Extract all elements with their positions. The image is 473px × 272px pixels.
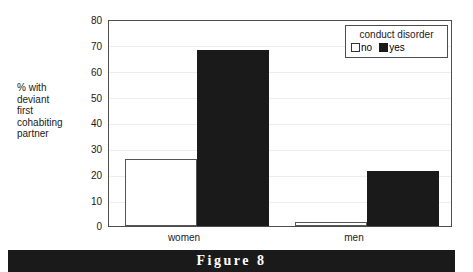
y-axis-tick-label-0: 0	[76, 222, 102, 232]
y-axis-tick-label-30: 30	[76, 145, 102, 155]
legend-title: conduct disorder	[351, 29, 442, 40]
legend-entries: no yes	[351, 42, 442, 53]
figure-caption-bar: Figure 8	[8, 250, 455, 272]
chart-plot-area: conduct disorder no yes	[108, 20, 452, 227]
black-square-swatch-icon	[379, 43, 388, 52]
y-axis-tick-label-60: 60	[76, 68, 102, 78]
bar-women-yes	[197, 50, 269, 226]
x-axis-tick-label-women: women	[148, 232, 220, 243]
x-axis-tick-label-men: men	[318, 232, 390, 243]
bar-men-no	[295, 222, 367, 226]
bar-women-no	[125, 159, 197, 226]
y-axis-tick-label-40: 40	[76, 119, 102, 129]
y-axis-tick-label-80: 80	[76, 16, 102, 26]
y-axis-tick-label-70: 70	[76, 42, 102, 52]
white-square-swatch-icon	[351, 43, 360, 52]
y-axis-title-line-5: partner	[17, 128, 95, 140]
y-axis-tick-label-10: 10	[76, 197, 102, 207]
y-axis-title: % with deviant first cohabiting partner	[17, 82, 95, 140]
figure-caption-text: Figure 8	[8, 253, 455, 269]
y-axis-title-line-3: first	[17, 105, 95, 117]
y-axis-tick-label-20: 20	[76, 171, 102, 181]
legend-entry-yes: yes	[379, 42, 405, 53]
y-axis-tick-label-50: 50	[76, 94, 102, 104]
bar-men-yes	[367, 171, 439, 226]
legend: conduct disorder no yes	[345, 25, 448, 58]
legend-label-yes: yes	[389, 42, 405, 53]
legend-label-no: no	[361, 42, 372, 53]
y-axis-title-line-1: % with	[17, 82, 95, 94]
legend-entry-no: no	[351, 42, 372, 53]
